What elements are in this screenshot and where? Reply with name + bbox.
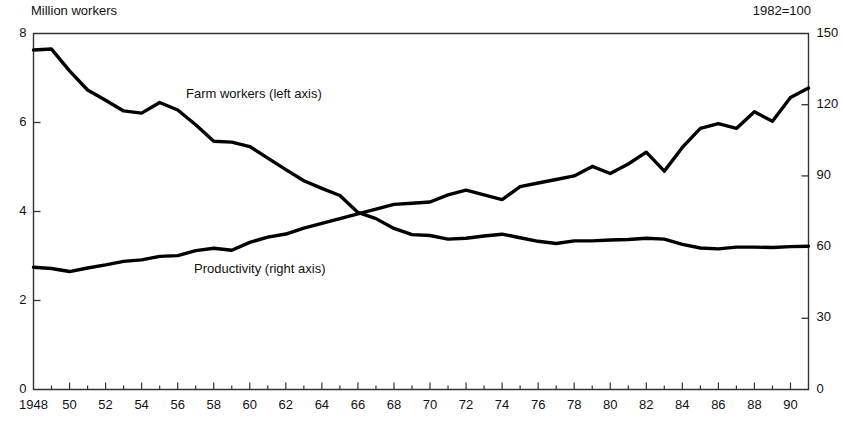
x-axis-tick-78: 78 (554, 398, 594, 412)
data-series-lines (34, 49, 809, 271)
chart-plot-area (0, 0, 843, 422)
x-axis-tick-64: 64 (302, 398, 342, 412)
x-axis-tick-52: 52 (86, 398, 126, 412)
left-axis-tick-6: 6 (19, 115, 26, 129)
chart-figure: Million workers 1982=100 86420 150120906… (0, 0, 843, 422)
series-label-productivity: Productivity (right axis) (194, 261, 325, 276)
line-farm-workers (34, 49, 809, 249)
left-axis-tick-4: 4 (19, 204, 26, 218)
x-axis-tick-56: 56 (158, 398, 198, 412)
x-axis-tick-74: 74 (482, 398, 522, 412)
x-axis-tick-54: 54 (122, 398, 162, 412)
x-axis-tick-90: 90 (770, 398, 810, 412)
x-axis-tick-68: 68 (374, 398, 414, 412)
x-axis-tick-70: 70 (410, 398, 450, 412)
x-axis-tick-62: 62 (266, 398, 306, 412)
right-axis-tick-90: 90 (817, 168, 831, 182)
x-axis-tick-60: 60 (230, 398, 270, 412)
left-axis-tick-0: 0 (19, 382, 26, 396)
x-axis-tick-1948: 1948 (14, 398, 54, 412)
left-axis-tick-8: 8 (19, 26, 26, 40)
left-axis-tick-2: 2 (19, 293, 26, 307)
right-axis-tick-60: 60 (817, 239, 831, 253)
series-label-farm-workers: Farm workers (left axis) (186, 86, 322, 101)
x-axis-tick-76: 76 (518, 398, 558, 412)
axis-frame (34, 34, 809, 390)
right-axis-tick-150: 150 (817, 26, 839, 40)
x-axis-tick-80: 80 (590, 398, 630, 412)
x-axis-tick-84: 84 (662, 398, 702, 412)
x-axis-tick-82: 82 (626, 398, 666, 412)
x-axis-tick-88: 88 (734, 398, 774, 412)
line-productivity (34, 88, 809, 271)
x-axis-tick-50: 50 (50, 398, 90, 412)
right-axis-tick-0: 0 (817, 382, 824, 396)
x-axis-tick-86: 86 (698, 398, 738, 412)
x-axis-tick-58: 58 (194, 398, 234, 412)
right-axis-tick-30: 30 (817, 310, 831, 324)
x-axis-tick-72: 72 (446, 398, 486, 412)
x-axis-tick-66: 66 (338, 398, 378, 412)
right-axis-tick-120: 120 (817, 97, 839, 111)
